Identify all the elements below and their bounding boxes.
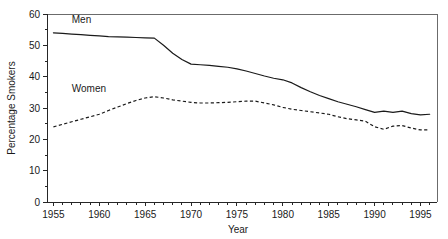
x-tick-label: 1995 [409,209,432,220]
series-line-women [53,97,429,130]
data-series-lines [53,33,429,130]
series-label-men: Men [72,14,91,25]
y-tick-label: 60 [29,9,41,20]
series-line-men [53,33,429,115]
y-tick-label: 10 [29,165,41,176]
plot-frame [47,14,437,202]
x-tick-label: 1965 [134,209,157,220]
x-axis-title: Year [228,224,249,235]
x-tick-label: 1985 [318,209,341,220]
x-tick-label: 1955 [42,209,65,220]
y-axis-title: Percentage Smokers [6,61,17,154]
plot-border [47,14,437,202]
y-tick-label: 40 [29,71,41,82]
y-tick-label: 30 [29,103,41,114]
plot-axes [47,14,437,202]
series-label-women: Women [72,83,106,94]
x-tick-label: 1990 [363,209,386,220]
y-tick-label: 20 [29,134,41,145]
x-tick-label: 1980 [272,209,295,220]
x-tick-label: 1970 [180,209,203,220]
x-axis-ticks [53,202,429,206]
x-tick-label: 1975 [226,209,249,220]
series-inline-labels: MenWomen [72,14,106,93]
x-tick-label: 1960 [88,209,111,220]
y-axis-ticks [43,14,47,202]
y-axis-tick-labels: 0102030405060 [29,9,41,208]
y-tick-label: 0 [34,197,40,208]
y-tick-label: 50 [29,40,41,51]
chart-canvas: 0102030405060 19551960196519701975198019… [0,0,448,239]
smoking-prevalence-line-chart: 0102030405060 19551960196519701975198019… [0,0,448,239]
x-axis-tick-labels: 195519601965197019751980198519901995 [42,209,432,220]
